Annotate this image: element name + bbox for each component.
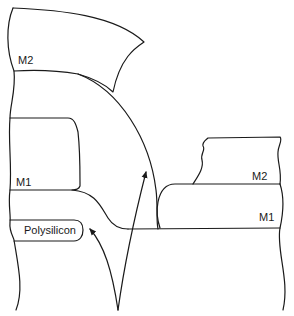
m2-step-arc bbox=[78, 74, 158, 229]
right-break-edge bbox=[279, 184, 285, 310]
label-m2-right: M2 bbox=[252, 170, 267, 182]
label-polysilicon: Polysilicon bbox=[24, 224, 76, 236]
label-m1-right: M1 bbox=[259, 211, 274, 223]
substrate-baseline bbox=[128, 228, 280, 229]
label-m1-left: M1 bbox=[16, 176, 31, 188]
m2-right-shape bbox=[193, 137, 281, 184]
m1-step-curve bbox=[72, 190, 128, 229]
interconnect-cross-section-diagram: M2 M1 Polysilicon M2 M1 bbox=[0, 0, 294, 316]
arrow-to-step-sidewall bbox=[118, 172, 146, 310]
label-m2-left: M2 bbox=[18, 54, 33, 66]
m2-left-upper-shape bbox=[13, 8, 144, 92]
arrow-to-polysilicon bbox=[90, 229, 118, 310]
